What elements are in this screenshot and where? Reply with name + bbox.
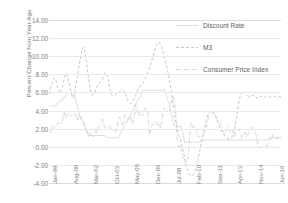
legend-item-discount-rate[interactable]: Discount Rate bbox=[176, 14, 288, 36]
legend-item-consumer-price-index[interactable]: Consumer Price Index bbox=[176, 58, 288, 80]
legend-swatch-m3 bbox=[176, 44, 198, 51]
y-axis-tick-label: 12.00 bbox=[32, 35, 48, 42]
gridline bbox=[49, 165, 281, 166]
x-axis-tick-label: Jun-16 bbox=[279, 166, 285, 184]
y-axis-tick-label: -4.00 bbox=[33, 180, 48, 187]
y-axis-tick-label: 14.00 bbox=[32, 17, 48, 24]
y-axis-tick-label: 8.00 bbox=[36, 71, 48, 78]
x-axis-tick-label: Oct-03 bbox=[114, 166, 120, 184]
x-axis-tick-label: Mar-02 bbox=[93, 165, 99, 184]
gridline bbox=[49, 111, 281, 112]
x-axis-tick-labels: Jan-99Aug-00Mar-02Oct-03May-05Dec-06Jul-… bbox=[49, 183, 281, 203]
gridline bbox=[49, 92, 281, 93]
x-axis-tick-label: Jul-08 bbox=[176, 168, 182, 184]
y-axis-tick-label: 10.00 bbox=[32, 53, 48, 60]
x-axis-tick-label: Dec-06 bbox=[155, 165, 161, 184]
x-axis-tick-label: Sep-11 bbox=[217, 165, 223, 184]
x-axis-tick-label: May-05 bbox=[134, 164, 140, 184]
gridline bbox=[49, 129, 281, 130]
legend-label-m3: M3 bbox=[203, 44, 212, 51]
x-axis-tick-label: Jan-99 bbox=[52, 166, 58, 184]
series-line-consumer-price-index bbox=[49, 96, 281, 166]
legend-swatch-consumer-price-index bbox=[176, 66, 198, 73]
x-axis-tick-label: Apr-13 bbox=[237, 166, 243, 184]
x-axis-tick-label: Feb-10 bbox=[196, 165, 202, 184]
legend-item-m3[interactable]: M3 bbox=[176, 36, 288, 58]
legend-swatch-discount-rate bbox=[176, 22, 198, 29]
y-axis-tick-label: 4.00 bbox=[36, 107, 48, 114]
x-axis-tick-label: Nov-14 bbox=[258, 165, 264, 184]
y-axis-tick-label: 2.00 bbox=[36, 125, 48, 132]
legend-label-consumer-price-index: Consumer Price Index bbox=[203, 66, 268, 73]
y-axis-tick-label: 6.00 bbox=[36, 89, 48, 96]
gridline bbox=[49, 147, 281, 148]
chart-legend: Discount Rate M3 Consumer Price Index bbox=[176, 14, 288, 80]
x-axis-tick-label: Aug-00 bbox=[73, 165, 79, 184]
y-axis-tick-labels: 14.0012.0010.008.006.004.002.000.00-2.00… bbox=[18, 0, 48, 203]
y-axis-tick-label: -2.00 bbox=[33, 161, 48, 168]
y-axis-tick-label: 0.00 bbox=[36, 143, 48, 150]
chart-container: Percent Change from Year Ago 14.0012.001… bbox=[0, 0, 288, 203]
legend-label-discount-rate: Discount Rate bbox=[203, 22, 244, 29]
